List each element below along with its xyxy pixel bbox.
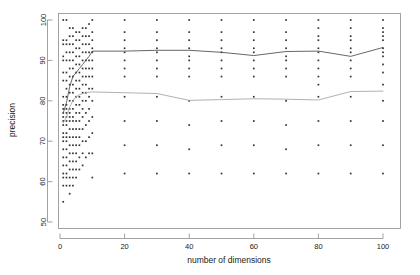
data-point <box>69 144 71 146</box>
data-point <box>188 148 190 150</box>
data-point <box>75 64 77 66</box>
data-point <box>69 68 71 70</box>
data-point <box>66 185 68 187</box>
data-point <box>79 112 81 114</box>
data-point <box>318 47 320 49</box>
data-point <box>69 128 71 130</box>
data-point <box>221 47 223 49</box>
data-point <box>88 68 90 70</box>
data-point <box>156 76 158 78</box>
data-point <box>69 136 71 138</box>
data-point <box>285 56 287 58</box>
data-point <box>156 120 158 122</box>
data-point <box>382 64 384 66</box>
x-tick-label: 80 <box>314 242 322 251</box>
data-point <box>72 92 74 94</box>
data-point <box>91 39 93 41</box>
data-point <box>69 92 71 94</box>
data-point <box>62 80 64 82</box>
data-point <box>69 116 71 118</box>
data-point <box>318 60 320 62</box>
data-point <box>221 96 223 98</box>
x-tick-label: 20 <box>120 242 128 251</box>
data-point <box>82 76 84 78</box>
data-point <box>72 51 74 53</box>
data-point <box>285 100 287 102</box>
data-point <box>62 43 64 45</box>
data-point <box>75 169 77 171</box>
data-point <box>124 173 126 175</box>
x-tick-label: 100 <box>377 242 390 251</box>
data-point <box>62 140 64 142</box>
data-point <box>62 148 64 150</box>
data-point <box>82 128 84 130</box>
data-point <box>124 31 126 33</box>
data-point <box>69 76 71 78</box>
data-point <box>66 96 68 98</box>
data-point <box>72 84 74 86</box>
data-point <box>66 112 68 114</box>
data-point <box>85 43 87 45</box>
data-point <box>253 47 255 49</box>
data-point <box>85 27 87 29</box>
data-point <box>79 120 81 122</box>
data-point <box>75 136 77 138</box>
data-point <box>62 56 64 58</box>
data-point <box>85 76 87 78</box>
data-point <box>221 19 223 21</box>
data-point <box>350 144 352 146</box>
data-point <box>285 173 287 175</box>
data-point <box>124 144 126 146</box>
data-point <box>75 31 77 33</box>
data-point <box>66 157 68 159</box>
data-point <box>79 72 81 74</box>
y-tick-label: 100 <box>39 14 48 27</box>
data-point <box>188 19 190 21</box>
data-point <box>85 35 87 37</box>
data-point <box>75 112 77 114</box>
data-point <box>79 88 81 90</box>
data-point <box>285 31 287 33</box>
data-point <box>350 68 352 70</box>
data-point <box>91 116 93 118</box>
data-point <box>69 152 71 154</box>
data-point <box>156 19 158 21</box>
scatter-plot-canvas: 5060708090100 020406080100 number of dim… <box>0 0 420 275</box>
data-point <box>350 51 352 53</box>
data-point <box>285 68 287 70</box>
data-point <box>124 39 126 41</box>
data-point <box>382 35 384 37</box>
data-point <box>69 27 71 29</box>
data-point <box>156 39 158 41</box>
data-point <box>253 76 255 78</box>
data-point <box>91 60 93 62</box>
data-point <box>285 60 287 62</box>
data-point <box>91 19 93 21</box>
data-point <box>72 116 74 118</box>
data-point <box>318 96 320 98</box>
data-point <box>66 173 68 175</box>
data-point <box>221 76 223 78</box>
data-point <box>69 51 71 53</box>
data-point <box>285 47 287 49</box>
data-point <box>188 39 190 41</box>
data-point <box>382 100 384 102</box>
data-point <box>79 47 81 49</box>
data-point <box>72 68 74 70</box>
data-point <box>62 116 64 118</box>
data-point <box>350 173 352 175</box>
data-point <box>88 23 90 25</box>
data-point <box>62 165 64 167</box>
data-point <box>285 76 287 78</box>
data-point <box>91 100 93 102</box>
data-point <box>382 56 384 58</box>
data-point <box>79 169 81 171</box>
data-point <box>82 60 84 62</box>
data-point <box>75 120 77 122</box>
data-point <box>69 185 71 187</box>
data-point <box>221 68 223 70</box>
y-tick-label: 70 <box>39 137 48 145</box>
data-point <box>69 177 71 179</box>
data-point <box>82 165 84 167</box>
data-point <box>79 144 81 146</box>
